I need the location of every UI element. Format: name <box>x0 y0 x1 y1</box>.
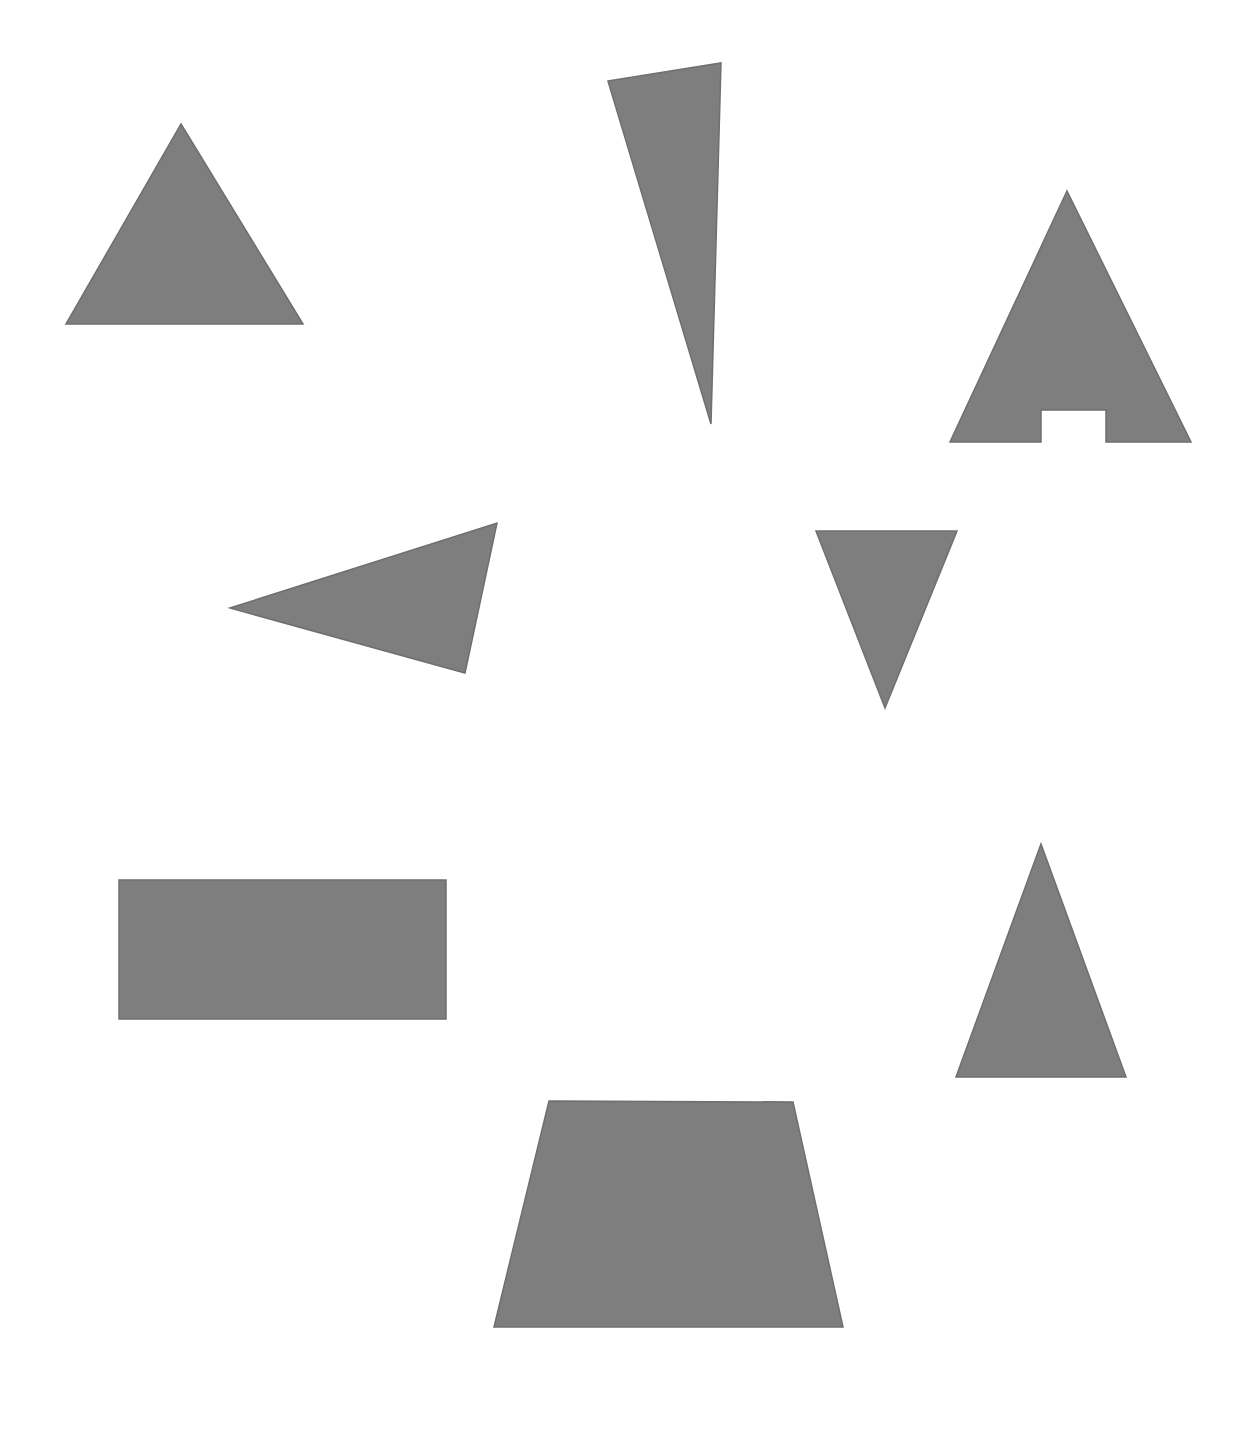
shape-scene-canvas: TriangleNarrow triangleTriangle with not… <box>0 0 1251 1432</box>
shapes-svg: TriangleNarrow triangleTriangle with not… <box>0 0 1251 1432</box>
rectangle-lower-left[interactable]: Rectangle <box>119 880 446 1019</box>
trapezoid-bottom-center[interactable]: Trapezoid <box>494 1101 843 1327</box>
